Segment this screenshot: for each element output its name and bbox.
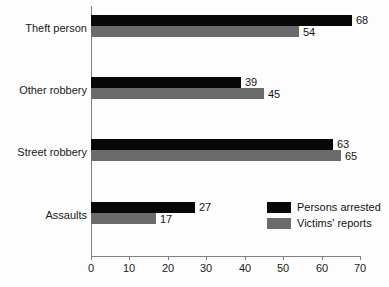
legend-swatch-persons-arrested bbox=[267, 202, 291, 213]
x-tick-mark-0 bbox=[91, 256, 92, 260]
x-tick-label-20: 20 bbox=[156, 262, 180, 274]
legend-item-victims-reports: Victims' reports bbox=[267, 216, 387, 230]
value-label-theft-person-victims-reports: 54 bbox=[303, 27, 315, 38]
category-label-street-robbery: Street robbery bbox=[1, 146, 87, 158]
bar-assaults-persons-arrested bbox=[91, 202, 195, 213]
value-label-street-robbery-victims-reports: 65 bbox=[345, 151, 357, 162]
legend-label-victims-reports: Victims' reports bbox=[297, 217, 372, 229]
x-tick-label-30: 30 bbox=[194, 262, 218, 274]
category-axis-labels: Theft person Other robbery Street robber… bbox=[0, 0, 87, 287]
value-label-assaults-victims-reports: 17 bbox=[160, 214, 172, 225]
x-tick-mark-70 bbox=[360, 256, 361, 260]
category-label-theft-person: Theft person bbox=[1, 22, 87, 34]
bar-assaults-victims-reports bbox=[91, 213, 156, 224]
bar-other-robbery-persons-arrested bbox=[91, 77, 241, 88]
bar-theft-person-victims-reports bbox=[91, 26, 299, 37]
x-tick-mark-20 bbox=[168, 256, 169, 260]
x-tick-mark-10 bbox=[129, 256, 130, 260]
x-tick-mark-50 bbox=[283, 256, 284, 260]
value-label-assaults-persons-arrested: 27 bbox=[199, 202, 211, 213]
x-tick-label-50: 50 bbox=[271, 262, 295, 274]
bar-theft-person-persons-arrested bbox=[91, 15, 352, 26]
bar-other-robbery-victims-reports bbox=[91, 88, 264, 99]
legend-label-persons-arrested: Persons arrested bbox=[297, 201, 381, 213]
x-tick-label-0: 0 bbox=[79, 262, 103, 274]
value-label-theft-person-persons-arrested: 68 bbox=[356, 15, 368, 26]
value-label-other-robbery-victims-reports: 45 bbox=[268, 89, 280, 100]
x-tick-mark-60 bbox=[322, 256, 323, 260]
x-axis-line bbox=[91, 256, 361, 257]
bar-street-robbery-victims-reports bbox=[91, 150, 341, 161]
x-tick-label-10: 10 bbox=[117, 262, 141, 274]
chart-legend: Persons arrested Victims' reports bbox=[267, 200, 387, 232]
x-tick-label-40: 40 bbox=[233, 262, 257, 274]
bar-street-robbery-persons-arrested bbox=[91, 139, 333, 150]
x-tick-mark-40 bbox=[245, 256, 246, 260]
x-tick-label-70: 70 bbox=[348, 262, 372, 274]
legend-swatch-victims-reports bbox=[267, 218, 291, 229]
x-tick-label-60: 60 bbox=[310, 262, 334, 274]
x-tick-mark-30 bbox=[206, 256, 207, 260]
category-label-assaults: Assaults bbox=[1, 209, 87, 221]
legend-item-persons-arrested: Persons arrested bbox=[267, 200, 387, 214]
category-label-other-robbery: Other robbery bbox=[1, 84, 87, 96]
bar-chart: Theft person Other robbery Street robber… bbox=[0, 0, 389, 287]
value-label-other-robbery-persons-arrested: 39 bbox=[245, 77, 257, 88]
value-label-street-robbery-persons-arrested: 63 bbox=[337, 139, 349, 150]
